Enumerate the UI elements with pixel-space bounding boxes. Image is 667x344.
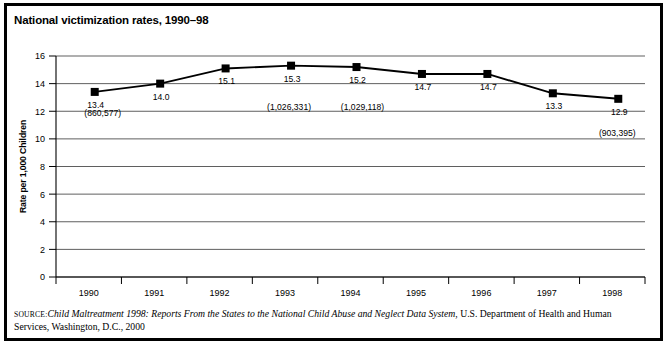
xtick-label: 1995 <box>406 288 426 298</box>
data-point-marker <box>91 88 99 96</box>
line-chart: 0246810121416199019911992199319941995199… <box>0 0 667 344</box>
y-axis-title: Rate per 1,000 Children <box>18 120 28 213</box>
ytick-label: 0 <box>40 272 45 282</box>
data-point-label: 15.2 <box>349 75 366 85</box>
data-point-label: 12.9 <box>611 107 628 117</box>
source-note: source:Child Maltreatment 1998: Reports … <box>14 308 646 334</box>
data-point-marker <box>418 70 426 78</box>
xtick-label: 1991 <box>144 288 164 298</box>
source-title: Child Maltreatment 1998: Reports From th… <box>47 308 455 319</box>
xtick-label: 1994 <box>340 288 360 298</box>
data-point-marker <box>614 95 622 103</box>
xtick-label: 1998 <box>602 288 622 298</box>
xtick-label: 1992 <box>210 288 230 298</box>
data-point-marker <box>353 63 361 71</box>
ytick-label: 4 <box>40 217 45 227</box>
xtick-label: 1996 <box>471 288 491 298</box>
ytick-label: 6 <box>40 190 45 200</box>
xtick-label: 1993 <box>275 288 295 298</box>
data-point-count-label: (903,395) <box>599 128 636 138</box>
data-point-marker <box>483 70 491 78</box>
data-point-count-label: (1,029,118) <box>341 102 384 112</box>
ytick-label: 14 <box>35 79 45 89</box>
data-point-label: 14.7 <box>415 82 432 92</box>
data-point-count-label: (860,577) <box>84 108 121 118</box>
data-point-label: 15.1 <box>218 76 235 86</box>
xtick-label: 1990 <box>79 288 99 298</box>
figure-container: National victimization rates, 1990–98 02… <box>0 0 667 344</box>
data-point-label: 14.7 <box>480 82 497 92</box>
xtick-label: 1997 <box>537 288 557 298</box>
data-point-marker <box>287 62 295 70</box>
data-point-label: 14.0 <box>153 92 170 102</box>
ytick-label: 12 <box>35 107 45 117</box>
ytick-label: 10 <box>35 134 45 144</box>
source-kicker: source: <box>14 310 47 319</box>
ytick-label: 8 <box>40 162 45 172</box>
data-point-count-label: (1,026,331) <box>267 102 311 112</box>
data-point-label: 13.3 <box>545 101 562 111</box>
data-point-label: 15.3 <box>284 74 301 84</box>
data-point-marker <box>222 64 230 72</box>
data-point-marker <box>549 89 557 97</box>
ytick-label: 16 <box>35 51 45 61</box>
data-point-marker <box>156 80 164 88</box>
ytick-label: 2 <box>40 245 45 255</box>
